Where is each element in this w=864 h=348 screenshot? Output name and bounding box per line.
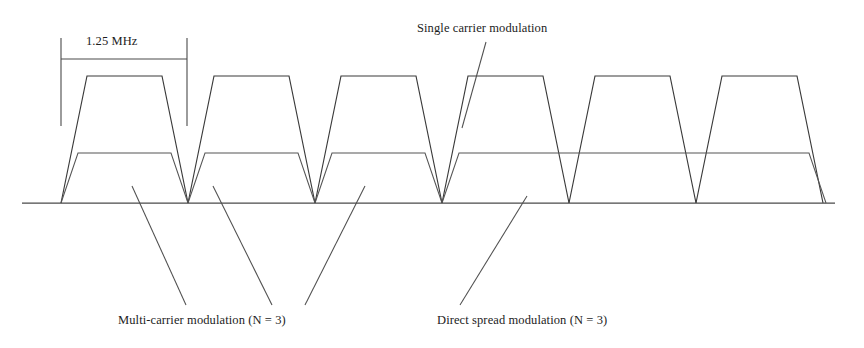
direct-spread-trapezoid-1 <box>442 153 826 203</box>
single-carrier-trapezoid-2 <box>188 76 315 203</box>
single-carrier-trapezoid-5 <box>569 76 696 203</box>
leader-multi-carrier-3 <box>305 186 365 305</box>
single-carrier-trapezoid-6 <box>696 76 823 203</box>
single-carrier-trapezoids <box>61 76 823 203</box>
single-carrier-trapezoid-3 <box>315 76 442 203</box>
leader-lines <box>132 42 527 305</box>
direct-spread-label: Direct spread modulation (N = 3) <box>437 313 607 328</box>
bandwidth-label: 1.25 MHz <box>86 34 138 49</box>
multi-carrier-trapezoid-1 <box>61 153 188 203</box>
spectrum-figure: 1.25 MHz Single carrier modulation Multi… <box>0 0 864 348</box>
spectrum-diagram-canvas <box>0 0 864 348</box>
single-carrier-trapezoid-1 <box>61 76 188 203</box>
leader-direct-spread <box>460 196 527 305</box>
single-carrier-trapezoid-4 <box>442 76 569 203</box>
multi-carrier-trapezoids <box>61 153 442 203</box>
multi-carrier-trapezoid-2 <box>188 153 315 203</box>
leader-multi-carrier-2 <box>213 186 272 305</box>
direct-spread-trapezoid <box>442 153 826 203</box>
multi-carrier-trapezoid-3 <box>315 153 442 203</box>
multi-carrier-label: Multi-carrier modulation (N = 3) <box>118 313 286 328</box>
single-carrier-label: Single carrier modulation <box>417 21 547 36</box>
leader-multi-carrier-1 <box>132 186 186 305</box>
